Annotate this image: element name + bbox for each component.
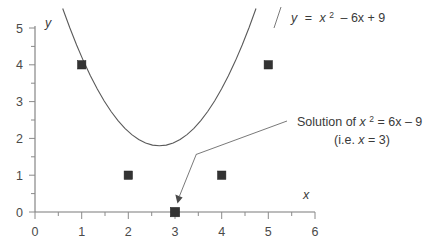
- callout-line1-exponent: 2: [369, 114, 374, 124]
- data-point-marker-3-0: [170, 207, 179, 216]
- parabola-curve-group: [63, 9, 256, 146]
- y-tick-label-0: 0: [16, 206, 23, 220]
- solution-callout-line2: (i.e. x = 3): [334, 133, 390, 147]
- y-tick-label-5: 5: [16, 22, 23, 36]
- data-point-marker-5-4: [264, 61, 272, 69]
- data-markers-group: [78, 61, 273, 217]
- y-axis-group: 0 1 2 3 4 5 y: [16, 16, 52, 220]
- curve-equation-text: y = x 2 – 6x + 9: [290, 7, 385, 26]
- x-tick-label-0: 0: [32, 225, 39, 239]
- y-tick-label-1: 1: [16, 169, 23, 183]
- equation-leader-line: [274, 7, 281, 28]
- callout-line1-rest: = 6x – 9: [378, 115, 423, 129]
- y-axis-label: y: [44, 16, 52, 30]
- solution-callout-line1: Solution of x 2 = 6x – 9: [297, 111, 422, 130]
- equation-equals: =: [305, 11, 312, 25]
- x-tick-label-2: 2: [125, 225, 132, 239]
- data-point-marker-2-1: [124, 171, 132, 179]
- x-tick-label-6: 6: [312, 225, 319, 239]
- equation-lhs: y: [290, 11, 298, 25]
- parabola-graph-figure: 0 1 2 3 4 5 y 0 1 2 3 4 5 6 x: [0, 0, 428, 246]
- callout-line1-prefix: Solution of: [297, 115, 360, 129]
- x-tick-label-3: 3: [172, 225, 179, 239]
- x-tick-label-4: 4: [218, 225, 225, 239]
- x-axis-label: x: [302, 188, 310, 202]
- equation-label-group: y = x 2 – 6x + 9: [274, 7, 385, 29]
- callout-line1-base: x: [359, 115, 367, 129]
- callout-line2-rest: = 3): [368, 133, 390, 147]
- solution-callout-group: Solution of x 2 = 6x – 9 (i.e. x = 3): [175, 111, 422, 204]
- x-tick-label-5: 5: [265, 225, 272, 239]
- data-point-marker-1-4: [78, 61, 86, 69]
- equation-rest: – 6x + 9: [340, 11, 385, 25]
- parabola-curve: [63, 9, 256, 146]
- solution-arrow-head: [175, 195, 182, 204]
- y-tick-label-3: 3: [16, 95, 23, 109]
- callout-line2-var: x: [357, 133, 365, 147]
- equation-exponent: 2: [329, 10, 334, 20]
- data-point-marker-4-1: [218, 171, 226, 179]
- equation-base: x: [319, 11, 327, 25]
- y-tick-label-4: 4: [16, 58, 23, 72]
- callout-line2-prefix: (i.e.: [334, 133, 358, 147]
- solution-leader-line: [180, 121, 288, 196]
- x-tick-label-1: 1: [78, 225, 85, 239]
- y-tick-label-2: 2: [16, 132, 23, 146]
